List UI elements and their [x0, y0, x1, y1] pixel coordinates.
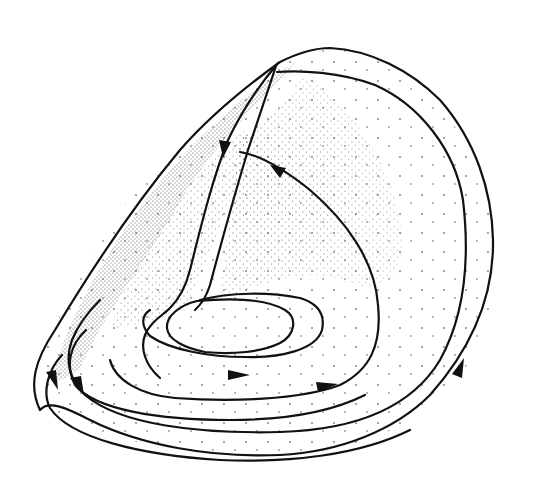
- diagram-canvas: [0, 0, 557, 490]
- surface-flow-diagram: [0, 0, 557, 490]
